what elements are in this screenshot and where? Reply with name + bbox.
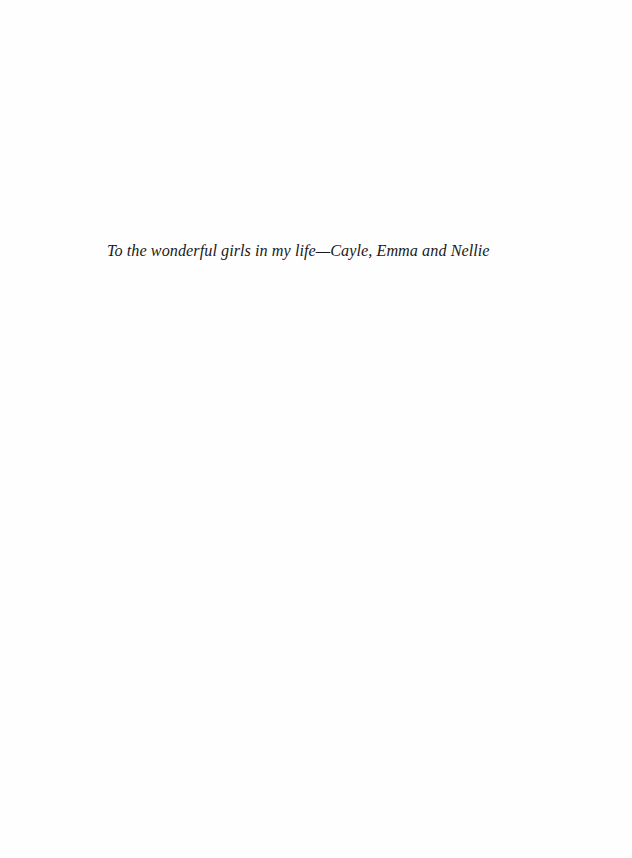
dedication-text: To the wonderful girls in my life—Cayle,…: [107, 241, 490, 261]
dedication-page: To the wonderful girls in my life—Cayle,…: [0, 0, 632, 858]
